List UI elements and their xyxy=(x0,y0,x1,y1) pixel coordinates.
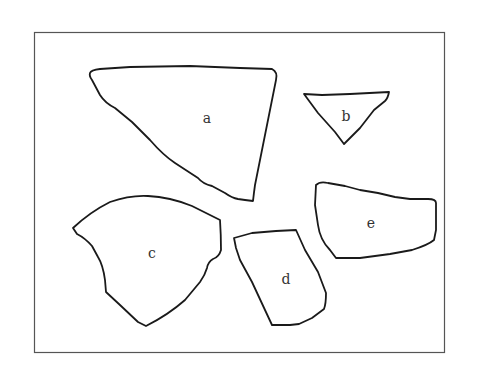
fragment-d-outline xyxy=(234,230,326,325)
figure-border xyxy=(35,33,445,353)
fragment-d-label: d xyxy=(282,272,291,286)
fragments-diagram xyxy=(0,0,499,376)
fragment-b-label: b xyxy=(342,109,351,123)
fragment-a-outline xyxy=(90,66,277,201)
fragment-e-outline xyxy=(315,182,436,258)
fragment-c-outline xyxy=(73,196,221,326)
fragment-c-label: c xyxy=(148,246,156,260)
fragment-a-label: a xyxy=(203,111,211,125)
fragment-e-label: e xyxy=(367,216,375,230)
